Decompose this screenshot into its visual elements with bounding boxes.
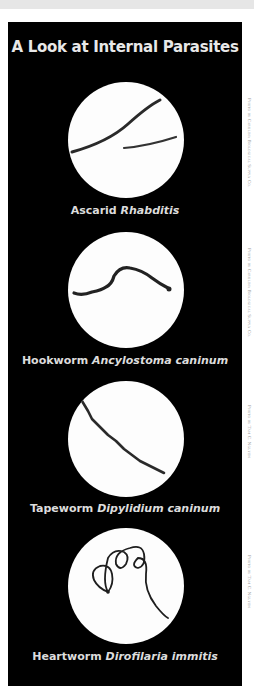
photo-credit: Photo by Tam C. Nguyen	[244, 555, 252, 608]
specimen-caption: Ascarid Rhabditis	[8, 204, 242, 217]
specimen-caption: Hookworm Ancylostoma caninum	[8, 354, 242, 367]
ascarid-worm-icon	[68, 82, 184, 198]
specimen-caption: Tapeworm Dipylidium caninum	[8, 502, 242, 515]
photo-credit: Photo by Carolina Biological Supply Co.	[244, 98, 252, 187]
parasites-panel: A Look at Internal Parasites Ascarid Rha…	[8, 22, 242, 686]
heartworm-icon	[68, 528, 184, 644]
top-strip	[0, 0, 254, 9]
photo-credit: Photo by Tam C. Nguyen	[244, 405, 252, 458]
specimen-photo	[68, 528, 184, 644]
specimen-photo	[68, 82, 184, 198]
page-title: A Look at Internal Parasites	[8, 38, 242, 56]
tapeworm-icon	[68, 381, 184, 497]
specimen-photo	[68, 232, 184, 348]
specimen-photo	[68, 381, 184, 497]
hookworm-icon	[68, 232, 184, 348]
specimen-caption: Heartworm Dirofilaria immitis	[8, 650, 242, 663]
photo-credit: Photo by Carolina Biological Supply Co.	[244, 248, 252, 337]
